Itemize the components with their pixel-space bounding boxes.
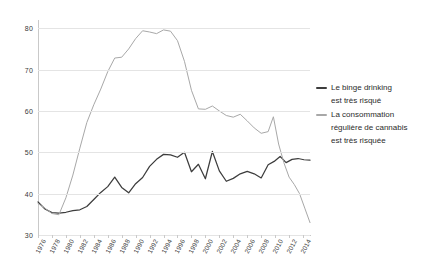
y-tick-label-70: 70 <box>25 66 33 73</box>
x-tick-mark-2004 <box>233 235 234 238</box>
gridline-y-70 <box>38 70 310 71</box>
x-tick-mark-2000 <box>205 235 206 238</box>
x-tick-mark-1978 <box>52 235 53 238</box>
x-tick-mark-2010 <box>275 235 276 238</box>
x-tick-mark-1994 <box>164 235 165 238</box>
x-tick-label-2000: 2000 <box>201 238 214 254</box>
x-tick-label-2002: 2002 <box>215 238 228 254</box>
legend-swatch-icon-2 <box>316 114 327 116</box>
line-chart: 304050607080 197619781980198219841986198… <box>0 0 446 265</box>
legend-swatch-icon-1 <box>316 87 327 89</box>
series-line-1 <box>38 151 310 213</box>
gridline-y-40 <box>38 194 310 195</box>
legend-entry-1[interactable]: Le binge drinkingest très risqué <box>316 82 444 108</box>
y-tick-label-40: 40 <box>25 190 33 197</box>
x-tick-label-2014: 2014 <box>299 238 312 254</box>
x-tick-label-2008: 2008 <box>257 238 270 254</box>
x-tick-mark-1996 <box>177 235 178 238</box>
y-tick-label-50: 50 <box>25 149 33 156</box>
x-tick-label-1980: 1980 <box>62 238 75 254</box>
gridline-y-50 <box>38 152 310 153</box>
y-tick-label-60: 60 <box>25 107 33 114</box>
x-tick-mark-1998 <box>191 235 192 238</box>
x-tick-label-1982: 1982 <box>76 238 89 254</box>
x-tick-label-2006: 2006 <box>243 238 256 254</box>
legend-label-line: Le binge drinking <box>331 82 444 95</box>
x-tick-mark-2002 <box>219 235 220 238</box>
x-tick-mark-2006 <box>247 235 248 238</box>
chart-legend: Le binge drinkingest très risquéLa conso… <box>316 82 444 149</box>
legend-label-line: régulière de cannabis <box>331 122 444 135</box>
y-tick-label-80: 80 <box>25 25 33 32</box>
x-tick-label-1992: 1992 <box>146 238 159 254</box>
x-tick-label-1976: 1976 <box>34 238 47 254</box>
x-tick-mark-1988 <box>122 235 123 238</box>
legend-label-line: est très risquée <box>331 135 444 148</box>
gridline-y-60 <box>38 111 310 112</box>
x-tick-mark-1986 <box>108 235 109 238</box>
x-tick-mark-1990 <box>136 235 137 238</box>
gridline-y-80 <box>38 28 310 29</box>
legend-label-line: est très risqué <box>331 95 444 108</box>
legend-label-line: La consommation <box>331 109 444 122</box>
x-tick-label-1988: 1988 <box>118 238 131 254</box>
legend-label-1: Le binge drinkingest très risqué <box>331 82 444 108</box>
x-tick-label-2004: 2004 <box>229 238 242 254</box>
x-tick-mark-1992 <box>150 235 151 238</box>
plot-area: 304050607080 <box>38 20 310 235</box>
x-tick-label-2010: 2010 <box>271 238 284 254</box>
legend-entry-2[interactable]: La consommationrégulière de cannabisest … <box>316 109 444 148</box>
x-tick-mark-2008 <box>261 235 262 238</box>
x-tick-mark-1980 <box>66 235 67 238</box>
x-tick-label-1990: 1990 <box>132 238 145 254</box>
series-paths <box>38 20 310 235</box>
y-tick-label-30: 30 <box>25 232 33 239</box>
x-tick-mark-2012 <box>289 235 290 238</box>
x-tick-label-1996: 1996 <box>174 238 187 254</box>
x-tick-mark-1984 <box>94 235 95 238</box>
x-tick-mark-2014 <box>303 235 304 238</box>
x-tick-label-1986: 1986 <box>104 238 117 254</box>
x-tick-label-1994: 1994 <box>160 238 173 254</box>
legend-label-2: La consommationrégulière de cannabisest … <box>331 109 444 148</box>
x-tick-mark-1976 <box>38 235 39 238</box>
x-tick-label-1978: 1978 <box>48 238 61 254</box>
x-tick-label-2012: 2012 <box>285 238 298 254</box>
x-tick-label-1998: 1998 <box>187 238 200 254</box>
x-tick-mark-1982 <box>80 235 81 238</box>
gridline-y-30 <box>38 235 310 236</box>
x-tick-label-1984: 1984 <box>90 238 103 254</box>
